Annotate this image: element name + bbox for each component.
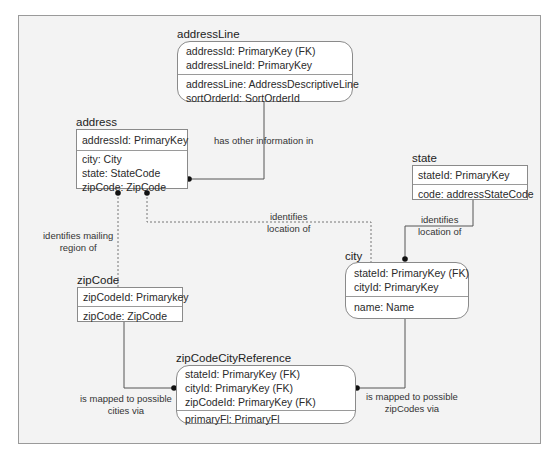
entity-key-attr: stateId: PrimaryKey (FK) [185, 367, 355, 381]
entity-attributes: city: City state: StateCode zipCode: Zip… [77, 150, 187, 196]
rel-line-zipcode-ref [124, 321, 174, 388]
entity-city[interactable]: stateId: PrimaryKey (FK) cityId: Primary… [345, 262, 469, 319]
entity-attr: code: addressStateCode [418, 187, 527, 201]
rel-label-line: identifies [267, 211, 310, 223]
rel-line-city-address [147, 193, 371, 262]
entity-address[interactable]: addressId: PrimaryKey city: City state: … [76, 129, 188, 189]
rel-label-zipcode-ref: is mapped to possible cities via [80, 393, 172, 417]
entity-zipcodecityreference[interactable]: stateId: PrimaryKey (FK) cityId: Primary… [176, 365, 356, 424]
entity-attr: city: City [82, 152, 187, 166]
entity-title-city: city [345, 250, 362, 262]
entity-keys: stateId: PrimaryKey (FK) cityId: Primary… [177, 366, 355, 410]
rel-dot-state-city [402, 256, 408, 262]
entity-state[interactable]: stateId: PrimaryKey code: addressStateCo… [412, 165, 528, 200]
rel-label-address-addressline: has other information in [214, 135, 313, 147]
entity-key-attr: zipCodeId: PrimaryKey (FK) [185, 395, 355, 409]
entity-title-zipcode: zipCode [77, 274, 119, 286]
entity-attributes: zipCode: ZipCode [78, 306, 182, 325]
entity-key-attr: addressId: PrimaryKey (FK) [186, 44, 352, 58]
entity-attr: addressLine: AddressDescriptiveLine [186, 77, 352, 91]
rel-label-zipcode-address: identifies mailing region of [43, 230, 113, 254]
entity-key-attr: addressId: PrimaryKey [82, 133, 187, 147]
rel-label-line: is mapped to possible [80, 393, 172, 405]
entity-attr: sortOrderId: SortOrderId [186, 91, 352, 105]
entity-title-state: state [412, 152, 437, 164]
rel-label-city-address: identifies location of [267, 211, 310, 235]
entity-attr: primaryFl: PrimaryFl [185, 412, 355, 426]
entity-title-address: address [76, 116, 117, 128]
rel-label-line: identifies mailing [43, 230, 113, 242]
rel-label-line: zipCodes via [366, 403, 458, 415]
rel-label-line: is mapped to possible [366, 391, 458, 403]
entity-key-attr: cityId: PrimaryKey (FK) [185, 381, 355, 395]
entity-title-zipcodecityreference: zipCodeCityReference [176, 352, 291, 364]
entity-attr: zipCode: ZipCode [82, 180, 187, 194]
entity-keys: addressId: PrimaryKey (FK) addressLineId… [178, 42, 352, 74]
entity-key-attr: stateId: PrimaryKey [418, 168, 527, 182]
rel-line-city-ref [357, 318, 405, 388]
rel-label-line: cities via [80, 405, 172, 417]
entity-key-attr: cityId: PrimaryKey [354, 280, 468, 294]
entity-attributes: code: addressStateCode [413, 184, 527, 203]
entity-key-attr: zipCodeId: Primarykey [83, 290, 182, 304]
entity-key-attr: stateId: PrimaryKey (FK) [354, 266, 468, 280]
entity-attr: name: Name [354, 300, 468, 314]
entity-keys: stateId: PrimaryKey [413, 166, 527, 184]
entity-zipcode[interactable]: zipCodeId: Primarykey zipCode: ZipCode [77, 287, 183, 322]
rel-label-line: region of [43, 242, 113, 254]
rel-label-line: location of [418, 226, 461, 238]
entity-title-addressline: addressLine [177, 28, 240, 40]
entity-keys: addressId: PrimaryKey [77, 130, 187, 150]
rel-label-line: identifies [418, 214, 461, 226]
entity-keys: zipCodeId: Primarykey [78, 288, 182, 306]
entity-attr: zipCode: ZipCode [83, 309, 182, 323]
entity-attr: state: StateCode [82, 166, 187, 180]
entity-attributes: name: Name [346, 296, 468, 316]
entity-attributes: addressLine: AddressDescriptiveLine sort… [178, 74, 352, 107]
entity-attributes: primaryFl: PrimaryFl [177, 410, 355, 428]
entity-key-attr: addressLineId: PrimaryKey [186, 58, 352, 72]
rel-label-line: location of [267, 223, 310, 235]
entity-addressline[interactable]: addressId: PrimaryKey (FK) addressLineId… [177, 41, 353, 102]
rel-label-state-city: identifies location of [418, 214, 461, 238]
entity-keys: stateId: PrimaryKey (FK) cityId: Primary… [346, 263, 468, 296]
rel-label-city-ref: is mapped to possible zipCodes via [366, 391, 458, 415]
